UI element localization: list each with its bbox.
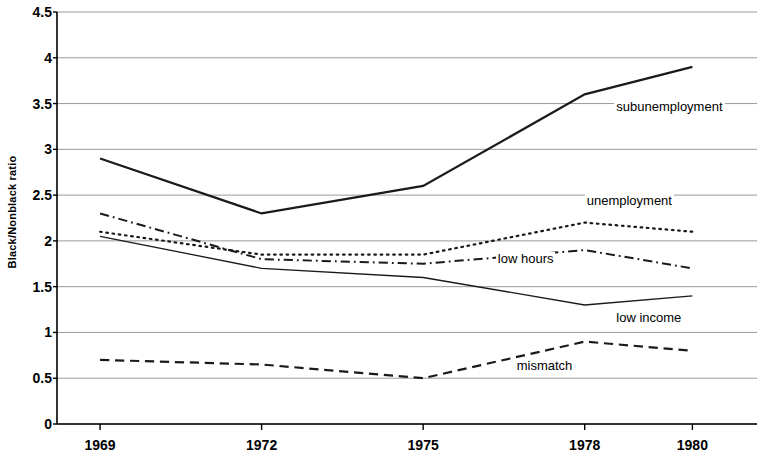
x-axis-tick-labels: 19691972197519781980	[0, 0, 766, 467]
x-tick-label: 1972	[246, 437, 277, 453]
chart-container: Black/Nonblack ratio 00.511.522.533.544.…	[0, 0, 766, 467]
series-label-low-hours: low hours	[496, 252, 556, 266]
series-label-unemployment: unemployment	[585, 194, 674, 208]
x-tick-label: 1980	[677, 437, 708, 453]
series-label-subunemployment: subunemployment	[614, 100, 724, 114]
series-label-mismatch: mismatch	[515, 359, 575, 373]
x-tick-label: 1975	[408, 437, 439, 453]
x-tick-label: 1978	[569, 437, 600, 453]
series-label-low-income: low income	[614, 311, 683, 325]
x-tick-label: 1969	[84, 437, 115, 453]
